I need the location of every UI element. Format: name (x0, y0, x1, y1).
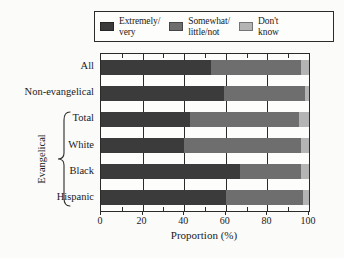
x-tick-label-100: 100 (301, 215, 316, 226)
evangelical-bracket-label: Evangelical (36, 134, 47, 184)
bar-segment (184, 138, 300, 153)
legend-swatch-dark-icon (100, 22, 114, 31)
legend-label-dont-know: Don't know (258, 16, 279, 37)
bar-segment (101, 190, 226, 205)
bar-segment (240, 164, 300, 179)
bar-segment (301, 138, 309, 153)
bar-segment (101, 112, 190, 127)
bar-row (101, 86, 309, 101)
bar-row (101, 138, 309, 153)
bar-segment (101, 138, 184, 153)
bar-segment (301, 164, 309, 179)
bar-row (101, 164, 309, 179)
y-axis-label-white: White (68, 139, 94, 150)
bar-segment (303, 190, 309, 205)
x-axis-tick-labels: 020406080100 (100, 215, 308, 228)
x-tick-label-80: 80 (261, 215, 271, 226)
evangelical-bracket-group: Evangelical (29, 110, 71, 208)
legend-label-extremely-very: Extremely/ very (119, 16, 160, 37)
bar-segment (101, 86, 224, 101)
bar-segment (101, 60, 211, 75)
y-axis-label-all: All (81, 60, 94, 71)
y-axis-label-non-evangelical: Non-evangelical (25, 86, 94, 97)
bar-segment (101, 164, 240, 179)
bar-segment (305, 86, 309, 101)
x-axis-title: Proportion (%) (100, 229, 308, 241)
y-axis-label-total: Total (73, 112, 94, 123)
bar-segment (299, 112, 309, 127)
legend-swatch-light-icon (239, 22, 253, 31)
legend-item-extremely-very: Extremely/ very (100, 16, 160, 37)
bar-row (101, 190, 309, 205)
bar-segment (226, 190, 303, 205)
bar-row (101, 112, 309, 127)
x-tick-label-40: 40 (178, 215, 188, 226)
chart-figure: Extremely/ very Somewhat/ little/not Don… (0, 0, 344, 258)
legend-item-somewhat-little-not: Somewhat/ little/not (169, 16, 230, 37)
legend-label-somewhat-little-not: Somewhat/ little/not (188, 16, 230, 37)
legend-swatch-medium-icon (169, 22, 183, 31)
curly-brace-icon (57, 110, 71, 208)
plot-area (100, 53, 310, 212)
bar-segment (190, 112, 298, 127)
bar-segment (211, 60, 300, 75)
bar-segment (224, 86, 305, 101)
bars-layer (101, 54, 309, 211)
chart-legend: Extremely/ very Somewhat/ little/not Don… (94, 11, 334, 42)
x-tick-label-0: 0 (98, 215, 103, 226)
bar-row (101, 60, 309, 75)
bar-segment (301, 60, 309, 75)
x-tick-label-60: 60 (220, 215, 230, 226)
y-axis-label-black: Black (70, 165, 95, 176)
x-tick-label-20: 20 (137, 215, 147, 226)
legend-item-dont-know: Don't know (239, 16, 279, 37)
